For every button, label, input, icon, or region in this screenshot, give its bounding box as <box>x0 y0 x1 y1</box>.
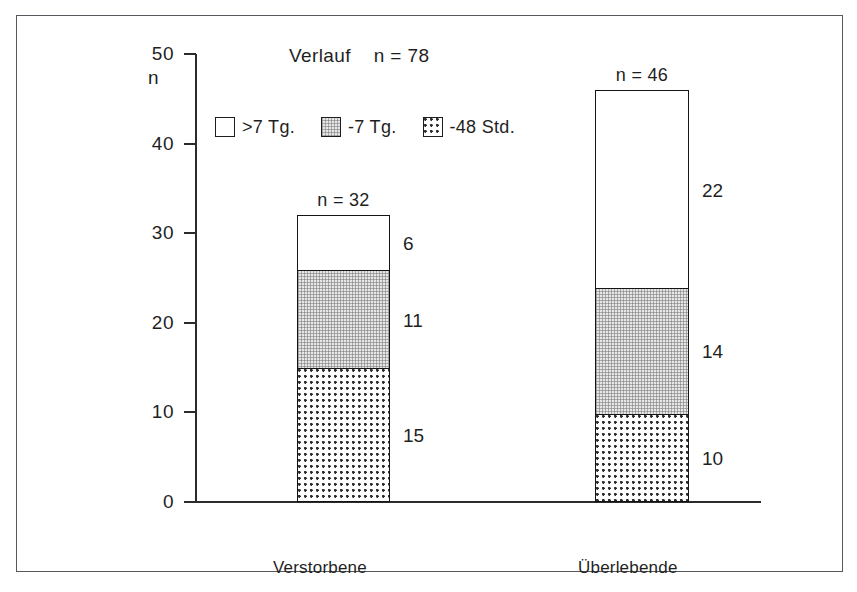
bar-ueberlebende[interactable]: n = 46 22 14 10 <box>595 90 689 502</box>
bar-segment-value: 15 <box>403 426 424 445</box>
chart-figure: Verlauf n = 78 n 50 40 30 20 10 0 <box>0 0 857 592</box>
bar-total-label: n = 46 <box>616 66 668 84</box>
legend-item-gt7tg: >7 Tg. <box>215 117 295 137</box>
y-tick-label: 10 <box>130 402 174 421</box>
y-axis-unit-label: n <box>148 68 159 87</box>
bar-segment-value: 10 <box>702 448 723 467</box>
y-tick-mark <box>184 53 196 55</box>
y-tick-label: 40 <box>130 134 174 153</box>
bar-total-label: n = 32 <box>317 191 369 209</box>
y-tick-label: 50 <box>130 44 174 63</box>
category-label-line: Verstorbene <box>273 557 368 579</box>
y-tick-label: 0 <box>130 492 174 511</box>
bar-segment-minus48std[interactable]: 15 <box>298 368 389 501</box>
legend-item-minus48std: -48 Std. <box>423 117 515 137</box>
bar-segment-minus48std[interactable]: 10 <box>596 414 688 501</box>
legend-label: -48 Std. <box>450 118 515 136</box>
y-tick-mark <box>184 411 196 413</box>
bar-segment-gt7tg[interactable]: 6 <box>298 216 389 270</box>
bar-segment-minus7tg[interactable]: 14 <box>596 288 688 414</box>
legend-swatch-dense-dots-icon <box>423 117 443 137</box>
bar-segment-value: 6 <box>403 233 414 252</box>
y-tick-mark <box>184 143 196 145</box>
bar-segment-value: 22 <box>702 180 723 199</box>
y-tick-label: 30 <box>130 223 174 242</box>
y-tick-mark <box>184 322 196 324</box>
bar-segment-gt7tg[interactable]: 22 <box>596 91 688 288</box>
category-label-line: Überlebende <box>564 557 686 579</box>
category-label-ueberlebende: Überlebende Dauer der Bewußtlosigkeit <box>564 513 686 592</box>
legend-label: >7 Tg. <box>242 118 295 136</box>
bar-segment-minus7tg[interactable]: 11 <box>298 270 389 369</box>
legend-label: -7 Tg. <box>348 118 397 136</box>
y-tick-mark <box>184 501 196 503</box>
chart-title: Verlauf n = 78 <box>289 46 429 65</box>
bar-segment-value: 11 <box>403 310 423 329</box>
figure-border: Verlauf n = 78 n 50 40 30 20 10 0 <box>16 15 843 572</box>
legend-item-minus7tg: -7 Tg. <box>321 117 397 137</box>
y-axis-line <box>195 54 197 503</box>
y-tick-mark <box>184 232 196 234</box>
chart-legend: >7 Tg. -7 Tg. -48 Std. <box>215 117 515 137</box>
bar-segment-value: 14 <box>702 342 723 361</box>
legend-swatch-light-stipple-icon <box>321 117 341 137</box>
legend-swatch-blank-icon <box>215 117 235 137</box>
y-tick-label: 20 <box>130 313 174 332</box>
bar-verstorbene[interactable]: n = 32 6 11 15 <box>297 215 390 502</box>
category-label-verstorbene: Verstorbene Überlebens- zeit <box>273 513 368 592</box>
